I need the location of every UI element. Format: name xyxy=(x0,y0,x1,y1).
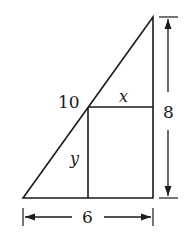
geometry-figure: 10 x y 8 6 xyxy=(0,0,196,243)
label-x: x xyxy=(119,87,128,106)
label-base: 6 xyxy=(82,207,93,227)
diagram-canvas: 10 x y 8 6 xyxy=(0,0,196,243)
label-y: y xyxy=(69,149,80,168)
label-height: 8 xyxy=(163,102,174,122)
label-hypotenuse-segment: 10 xyxy=(58,92,80,112)
